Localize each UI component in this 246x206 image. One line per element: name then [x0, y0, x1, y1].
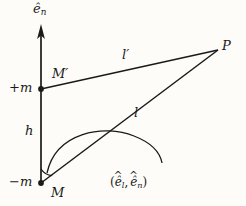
label-distance-l-prime: l′: [122, 48, 129, 61]
label-charge-negative: −m: [9, 175, 32, 188]
label-m-prime-mark: ′: [65, 66, 68, 81]
label-point-p: P: [222, 39, 231, 52]
label-angle-comma: ,: [124, 175, 128, 189]
label-point-m-prime: M′: [52, 67, 68, 80]
label-angle-paren-close: ): [143, 175, 148, 189]
hat-accent-icon: ^: [114, 171, 123, 181]
point-marker-m: [38, 180, 44, 186]
hat-accent-icon: ^: [129, 171, 138, 181]
label-unit-vector-en: ^ên: [33, 2, 46, 17]
label-en-subscript: n: [41, 7, 47, 17]
hat-accent-icon: ^: [32, 0, 41, 7]
label-height-h: h: [25, 124, 33, 137]
label-point-m: M: [51, 186, 64, 199]
label-m-prime-base: M: [52, 66, 65, 81]
label-angle-between-unit-vectors: (^êl,^ên): [110, 176, 147, 189]
point-marker-m-prime: [38, 86, 44, 92]
label-charge-positive: +m: [9, 81, 32, 94]
label-distance-l: l: [134, 106, 138, 119]
figure-canvas: ^ên P l′ M′ +m l h −m M (^êl,^ên): [0, 0, 246, 206]
angle-arc-large: [47, 131, 162, 173]
label-l-prime-mark: ′: [126, 47, 129, 62]
